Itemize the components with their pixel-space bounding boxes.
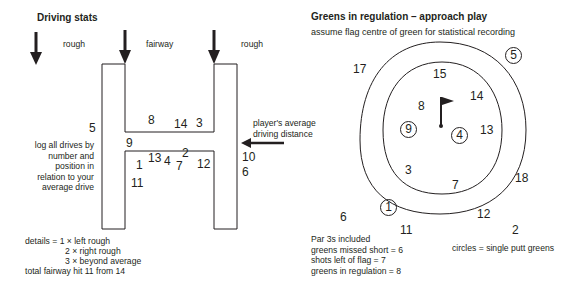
- hole-6: 6: [340, 210, 347, 224]
- hole-2: 2: [512, 223, 519, 237]
- greens-title: Greens in regulation – approach play: [311, 11, 487, 22]
- drive-2: 2: [182, 146, 189, 160]
- hole-12: 12: [477, 207, 490, 221]
- details-line-3: 3 × beyond average: [65, 256, 141, 267]
- avg-distance-label-1: player's average: [253, 118, 316, 129]
- fairway-shape: [102, 64, 237, 229]
- drive-5: 5: [89, 121, 96, 135]
- greens-legend: circles = single putt greens: [452, 243, 554, 254]
- hole-17: 17: [353, 62, 366, 76]
- drive-7: 7: [176, 159, 183, 173]
- flag-icon: [439, 97, 454, 128]
- hole-14: 14: [470, 89, 483, 103]
- drive-6: 6: [242, 165, 249, 179]
- drive-13: 13: [148, 151, 161, 165]
- greens-subtitle: assume flag centre of green for statisti…: [311, 27, 515, 38]
- drive-1: 1: [136, 158, 143, 172]
- instructions: log all drives by number and position in…: [0, 140, 94, 193]
- hole-9-single-putt: 9: [400, 119, 417, 138]
- hole-7: 7: [452, 178, 459, 192]
- label-rough-left: rough: [63, 39, 85, 50]
- drive-14: 14: [174, 117, 187, 131]
- hole-4-single-putt: 4: [451, 125, 468, 144]
- hole-8: 8: [418, 99, 425, 113]
- hole-1-single-putt: 1: [380, 197, 397, 216]
- drive-8: 8: [148, 113, 155, 127]
- drive-4: 4: [164, 154, 171, 168]
- label-fairway: fairway: [146, 39, 173, 50]
- drive-12: 12: [197, 157, 210, 171]
- drive-3: 3: [196, 116, 203, 130]
- avg-distance-label-2: driving distance: [253, 129, 313, 140]
- hole-13: 13: [480, 123, 493, 137]
- driving-stats-title: Driving stats: [37, 12, 98, 23]
- hole-18: 18: [515, 171, 528, 185]
- drive-11: 11: [131, 176, 143, 190]
- details-line-1: details = 1 × left rough: [25, 236, 110, 247]
- details-line-2: 2 × right rough: [65, 246, 121, 257]
- drive-9: 9: [126, 136, 133, 150]
- drive-10: 10: [242, 150, 255, 164]
- label-rough-right: rough: [241, 39, 263, 50]
- hole-15: 15: [433, 67, 446, 81]
- hole-5-single-putt: 5: [505, 45, 522, 64]
- hole-3: 3: [405, 163, 412, 177]
- greens-summary: Par 3s included greens missed short = 6 …: [311, 234, 403, 276]
- details-line-4: total fairway hit 11 from 14: [25, 266, 125, 277]
